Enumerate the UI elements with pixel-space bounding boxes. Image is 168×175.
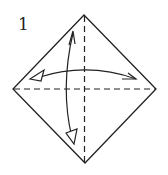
arrowhead-left-icon — [30, 70, 44, 81]
arrowhead-right-half-icon — [122, 73, 136, 79]
arrowhead-bottom-icon — [66, 129, 77, 144]
vertical-fold-unfold-arrow — [66, 31, 77, 144]
horizontal-fold-unfold-arrow — [30, 70, 136, 81]
origami-diagram — [0, 0, 168, 175]
